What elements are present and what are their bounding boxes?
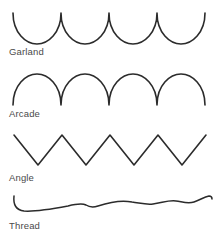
- garland-label: Garland: [9, 46, 44, 57]
- patterns-canvas: Garland Arcade Angle Thread: [0, 0, 219, 242]
- thread-label: Thread: [9, 220, 40, 231]
- arcade-label: Arcade: [9, 108, 40, 119]
- figure-background: [0, 0, 219, 242]
- handwriting-connection-forms-figure: Garland Arcade Angle Thread: [0, 0, 219, 242]
- angle-label: Angle: [9, 172, 34, 183]
